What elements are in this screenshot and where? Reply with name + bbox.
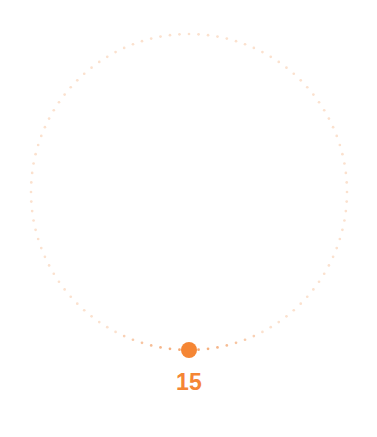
dial-track-dot — [37, 238, 40, 241]
dial-track-dot — [207, 348, 210, 351]
dial-track-dot — [292, 309, 295, 312]
dial-track-dot — [312, 93, 315, 96]
dial-track-dot — [261, 51, 264, 54]
dial-track-dot — [159, 35, 162, 38]
dial-track-dot — [225, 37, 228, 40]
dial-track-dot — [30, 181, 33, 184]
dial-track-dot — [345, 210, 348, 213]
dial-track-dot — [32, 162, 35, 165]
dial-track-dot — [98, 321, 101, 324]
dial-track-dots — [30, 33, 349, 352]
dial-track-dot — [34, 153, 37, 156]
dial-track-dot — [52, 109, 55, 112]
dial-track-dot — [197, 348, 200, 351]
dial-track-dot — [285, 315, 288, 318]
dial-track-dot — [277, 61, 280, 64]
dial-track-dot — [328, 117, 331, 120]
dial-track-dot — [150, 37, 153, 40]
dial-track-dot — [318, 280, 321, 283]
dial-track-dot — [188, 33, 191, 36]
dial-track-dot — [253, 335, 256, 338]
dial-track-dot — [292, 72, 295, 75]
dial-track-dot — [83, 72, 86, 75]
dial-track-dot — [40, 135, 43, 138]
dial-track-dot — [332, 126, 335, 129]
dial-track-dot — [63, 288, 66, 291]
dial-track-dot — [225, 344, 228, 347]
dial-track-dot — [277, 321, 280, 324]
dial-track-dot — [106, 55, 109, 58]
dial-track-dot — [34, 228, 37, 231]
dial-track-dot — [312, 288, 315, 291]
dial-track-dot — [90, 315, 93, 318]
dial-track-dot — [244, 43, 247, 46]
dial-track-dot — [269, 55, 272, 58]
dial-track-dot — [123, 335, 126, 338]
dial-track-dot — [48, 117, 51, 120]
dial-track-dot — [58, 280, 61, 283]
dial-track-dot — [76, 79, 79, 82]
dial-track-dot — [83, 309, 86, 312]
dial-track-dot — [63, 93, 66, 96]
dial-track-dot — [44, 126, 47, 129]
dial-track-dot — [169, 348, 172, 351]
dial-track-dot — [216, 346, 219, 349]
dial-track-dot — [132, 338, 135, 341]
dial-track-dot — [235, 342, 238, 345]
dial-track-dot — [328, 264, 331, 267]
dial-track-dot — [40, 247, 43, 250]
dial-track-dot — [114, 331, 117, 334]
dial-track-dot — [44, 256, 47, 259]
dial-track-dot — [106, 326, 109, 329]
dial-track-dot — [30, 200, 33, 203]
dial-track-dot — [48, 264, 51, 267]
dial-track-dot — [90, 66, 93, 69]
dial-track-dot — [299, 302, 302, 305]
dial-track-dot — [132, 43, 135, 46]
dial-track-dot — [332, 256, 335, 259]
dial-track-dot — [31, 172, 34, 175]
dial-track-dot — [76, 302, 79, 305]
dial-track-dot — [269, 326, 272, 329]
dial-track-dot — [343, 219, 346, 222]
dial-track-dot — [341, 153, 344, 156]
dial-track-dot — [299, 79, 302, 82]
dial-track-dot — [197, 33, 200, 36]
dial-track-dot — [141, 342, 144, 345]
dial-track-dot — [32, 219, 35, 222]
dial-track-dot — [114, 51, 117, 54]
dial-track-dot — [335, 135, 338, 138]
dial-track-dot — [345, 172, 348, 175]
dial-track-dot — [159, 346, 162, 349]
dial-track-dot — [345, 181, 348, 184]
dial-track-dot — [339, 144, 342, 147]
dial-track-dot — [306, 295, 309, 298]
dial-track-dot — [141, 40, 144, 43]
circular-value-slider[interactable]: 15 — [0, 0, 377, 437]
dial-track-dot — [169, 34, 172, 37]
dial-track-dot — [37, 144, 40, 147]
dial-track-dot — [261, 331, 264, 334]
dial-track-dot — [323, 109, 326, 112]
dial-track-dot — [58, 101, 61, 104]
dial-track-dot — [335, 247, 338, 250]
dial-track-dot — [318, 101, 321, 104]
dial-track-dot — [31, 210, 34, 213]
dial-track-dot — [341, 228, 344, 231]
dial-track-dot — [346, 191, 349, 194]
dial-track-dot — [98, 61, 101, 64]
slider-value-label: 15 — [176, 371, 202, 394]
dial-track-dot — [253, 47, 256, 50]
dial-track-dot — [69, 295, 72, 298]
dial-track-dot — [178, 33, 181, 36]
dial-track-dot — [30, 191, 33, 194]
dial-track-dot — [285, 66, 288, 69]
dial-track-dot — [207, 34, 210, 37]
dial-track-dot — [52, 272, 55, 275]
dial-track-dot — [345, 200, 348, 203]
dial-track-dot — [150, 344, 153, 347]
dial-track-dot — [216, 35, 219, 38]
slider-handle[interactable] — [181, 342, 197, 358]
dial-track-dot — [323, 272, 326, 275]
dial-track-dot — [235, 40, 238, 43]
